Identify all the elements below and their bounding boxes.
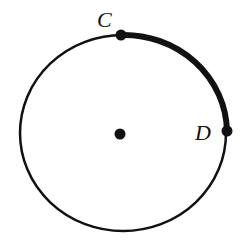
diagram-canvas: C D	[0, 0, 248, 240]
label-c: C	[97, 7, 112, 32]
label-d: D	[194, 120, 211, 145]
highlighted-arc-cd	[121, 35, 227, 131]
point-d	[222, 126, 233, 137]
circle-diagram: C D	[0, 0, 248, 240]
center-point	[115, 129, 126, 140]
point-c	[116, 30, 127, 41]
